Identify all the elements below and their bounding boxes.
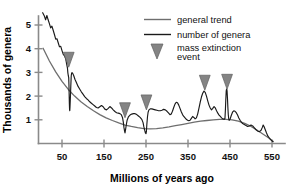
y-tick-label: 4 (26, 43, 32, 54)
x-tick-label: 550 (264, 151, 280, 162)
extinction-chart-figure: 12345 50150250350450550 Millions of year… (0, 0, 292, 188)
legend-item-number-of-genera: number of genera (144, 30, 251, 40)
legend: general trend number of genera mass exti… (144, 15, 251, 62)
y-tick-label: 3 (26, 67, 31, 78)
x-tick-label: 150 (96, 151, 112, 162)
legend-item-general-trend: general trend (144, 15, 232, 25)
x-tick-label: 450 (222, 151, 238, 162)
mass-extinction-marker (63, 52, 74, 67)
legend-swatch-triangle-extinction (151, 44, 163, 59)
x-tick-label: 250 (138, 151, 154, 162)
x-tick-label: 50 (57, 151, 68, 162)
y-tick-label: 5 (26, 19, 32, 30)
mass-extinction-marker (141, 95, 152, 110)
y-tick-label: 1 (26, 114, 32, 125)
y-axis-ticks: 12345 (26, 19, 43, 125)
x-tick-label: 350 (180, 151, 196, 162)
y-tick-label: 2 (26, 91, 31, 102)
mass-extinction-marker (222, 74, 233, 89)
legend-label-general-trend: general trend (177, 15, 232, 25)
legend-label-number-of-genera: number of genera (177, 30, 251, 40)
y-axis-title: Thousands of genera (1, 27, 13, 133)
legend-item-mass-extinction-event: mass extinction event (151, 43, 241, 62)
series-line-general-trend (43, 48, 273, 141)
legend-label-mass-extinction-line2: event (177, 52, 200, 62)
chart-canvas: 12345 50150250350450550 Millions of year… (0, 0, 292, 188)
mass-extinction-marker (199, 75, 210, 90)
x-axis-title: Millions of years ago (110, 172, 214, 184)
